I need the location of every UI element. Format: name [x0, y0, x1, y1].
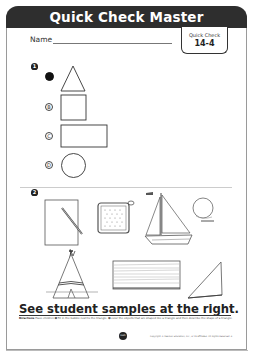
name-field[interactable]	[53, 43, 172, 44]
quick-check-label: Quick Check	[182, 32, 227, 38]
rectangle-shape	[60, 124, 108, 148]
quick-check-badge: Quick Check 14-4	[181, 27, 228, 54]
section-divider	[20, 187, 232, 188]
wood-board-image[interactable]	[112, 260, 182, 291]
page-title: Quick Check Master	[6, 6, 247, 28]
circle-shape	[60, 152, 87, 179]
name-label: Name	[30, 35, 52, 44]
directions-label: Directions	[19, 316, 34, 320]
paper-with-pencil-image[interactable]	[44, 199, 86, 247]
bubble-a-selected[interactable]	[45, 72, 54, 81]
pot-holder-image[interactable]	[97, 198, 137, 234]
sailboat-image[interactable]	[144, 191, 194, 248]
item-2-marker-icon: 2	[31, 189, 38, 196]
triangle-ruler-image[interactable]	[186, 260, 224, 301]
sample-note: See student samples at the right.	[19, 302, 239, 316]
bubble-b[interactable]: B	[45, 103, 53, 111]
triangle-shape	[60, 65, 86, 92]
page-shadow	[6, 350, 248, 351]
teepee-image[interactable]	[46, 250, 98, 302]
copyright-text: Copyright © Pearson Education, Inc., or …	[150, 335, 232, 338]
bubble-c[interactable]: C	[45, 132, 53, 140]
publisher-logo-icon: Math	[119, 332, 127, 340]
directions-text: Directions Have children ➊ fill in the b…	[19, 317, 234, 321]
item-1-marker-icon: 1	[31, 63, 38, 70]
quick-check-number: 14-4	[182, 39, 227, 48]
square-shape	[60, 94, 87, 121]
directions-body: Have children ➊ fill in the bubble next …	[35, 316, 232, 320]
bubble-d[interactable]: D	[45, 161, 53, 169]
ball-image[interactable]	[192, 196, 216, 224]
